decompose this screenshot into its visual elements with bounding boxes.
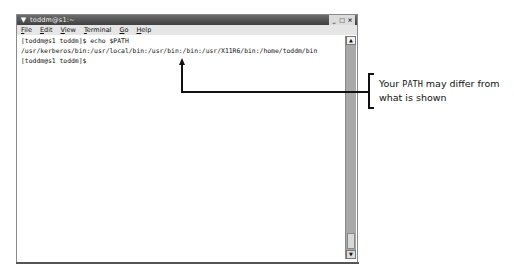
callout-text-before: Your (379, 78, 402, 89)
minimize-button[interactable]: _ (331, 17, 337, 23)
annotation-arrow-vertical (181, 64, 183, 93)
window-controls: _ □ × (329, 15, 355, 25)
menu-edit-label: dit (44, 26, 52, 34)
menu-file[interactable]: File (21, 25, 32, 35)
menu-terminal-label: erminal (87, 26, 112, 34)
menu-help[interactable]: Help (136, 25, 151, 35)
menu-go[interactable]: Go (119, 25, 128, 35)
menu-help-label: elp (141, 26, 151, 34)
menu-terminal[interactable]: Terminal (84, 25, 111, 35)
callout-text-after: may differ from (423, 78, 500, 89)
annotation-arrow-horizontal (181, 91, 368, 93)
callout-path-keyword: PATH (402, 79, 422, 89)
menu-view[interactable]: View (61, 25, 76, 35)
vertical-scrollbar[interactable]: ▲ ▼ (345, 36, 356, 259)
callout-line-2: what is shown (379, 91, 500, 104)
callout-line-1: Your PATH may differ from (379, 77, 500, 91)
annotation-bracket-bottom (368, 107, 374, 109)
window-menu-icon[interactable]: ▼ (19, 16, 28, 25)
terminal-line-path-output: /usr/kerberos/bin:/usr/local/bin:/usr/bi… (21, 46, 345, 56)
window-title: toddm@s1:~ (30, 15, 75, 25)
close-button[interactable]: × (347, 17, 353, 23)
annotation-bracket-top (368, 73, 374, 75)
title-bar[interactable]: ▼ toddm@s1:~ _ □ × (17, 15, 357, 25)
scroll-down-arrow-icon[interactable]: ▼ (346, 250, 356, 259)
menu-edit[interactable]: Edit (40, 25, 53, 35)
scroll-up-arrow-icon[interactable]: ▲ (346, 36, 356, 45)
menu-bar: File Edit View Terminal Go Help (17, 25, 357, 35)
menu-file-label: ile (24, 26, 32, 34)
terminal-window: ▼ toddm@s1:~ _ □ × File Edit View Termin… (16, 14, 358, 263)
terminal-line-command: [toddm@s1 toddm]$ echo $PATH (21, 36, 345, 46)
maximize-button[interactable]: □ (339, 17, 345, 23)
menu-view-label: iew (65, 26, 76, 34)
annotation-bracket-vertical (368, 73, 370, 109)
menu-go-label: o (124, 26, 128, 34)
annotation-callout: Your PATH may differ from what is shown (379, 77, 500, 104)
scrollbar-thumb[interactable] (347, 233, 355, 249)
